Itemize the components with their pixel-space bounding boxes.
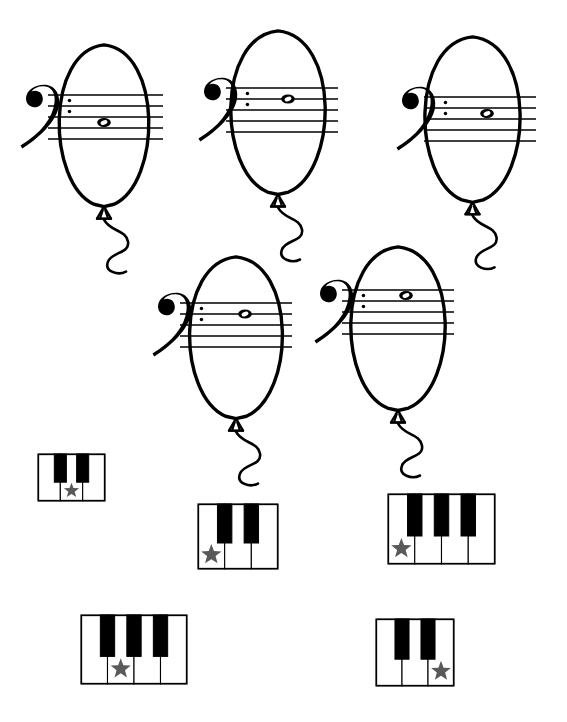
black-key[interactable] [127, 615, 141, 656]
piano-keyboard-1[interactable]: Piano 1 [38, 454, 105, 501]
balloon-string [104, 220, 128, 274]
balloon-body [231, 31, 325, 195]
black-key[interactable] [54, 454, 66, 482]
black-keys [100, 615, 167, 656]
balloon-body [351, 247, 445, 411]
piano-keyboard-5[interactable]: Piano 5 [376, 619, 454, 686]
black-key[interactable] [77, 454, 89, 482]
whole-note-head [238, 309, 252, 318]
black-keys [408, 494, 476, 536]
balloon-string [236, 432, 260, 486]
black-key[interactable] [408, 494, 422, 536]
whole-note-head [480, 109, 494, 118]
black-key[interactable] [153, 615, 167, 656]
black-key[interactable] [421, 619, 435, 659]
balloon-knot [466, 202, 480, 214]
balloon-string [278, 207, 302, 261]
worksheet-canvas: Balloon 1space between line 3 and line 4… [0, 0, 567, 722]
piano-drawing [376, 619, 454, 686]
black-key[interactable] [217, 504, 231, 543]
balloon-knot [229, 419, 243, 431]
black-key[interactable] [244, 504, 258, 543]
balloon-5[interactable]: Balloon 5space between line 1 and line 2… [336, 246, 520, 519]
piano-drawing [198, 504, 278, 569]
whole-note-head [281, 94, 295, 103]
black-key[interactable] [100, 615, 114, 656]
balloon-knot [391, 410, 405, 422]
piano-drawing [388, 494, 495, 564]
balloon-knot [271, 194, 285, 206]
black-key[interactable] [395, 619, 409, 659]
black-key[interactable] [461, 494, 475, 536]
piano-drawing [81, 615, 187, 684]
balloon-knot [97, 207, 111, 219]
balloon-drawing [336, 246, 520, 519]
piano-keyboard-4[interactable]: Piano 4 [81, 615, 187, 684]
whole-note-head [399, 291, 413, 300]
whole-note-head [97, 118, 111, 127]
balloon-body [190, 257, 283, 419]
piano-keyboard-2[interactable]: Piano 2 [198, 504, 278, 569]
piano-keyboard-3[interactable]: Piano 3 [388, 494, 495, 564]
piano-drawing [38, 454, 105, 501]
balloon-string [398, 423, 422, 477]
black-key[interactable] [434, 494, 448, 536]
